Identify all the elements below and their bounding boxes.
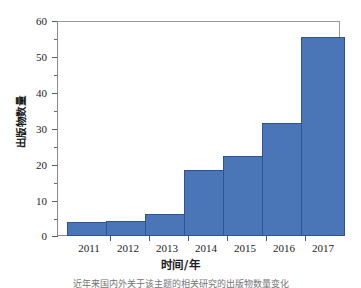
x-tick-mark-1 [110, 236, 111, 241]
x-tick-label-2016: 2016 [262, 242, 306, 254]
bar-2016[interactable] [262, 123, 306, 236]
x-tick-label-2013: 2013 [145, 242, 189, 254]
x-axis-title: 时间/年 [0, 256, 361, 272]
y-tick-label-0: 0 [21, 231, 47, 242]
y-tick-label-30: 30 [21, 124, 47, 135]
bar-2011[interactable] [67, 222, 111, 236]
x-tick-mark-6 [305, 236, 306, 241]
bar-2013[interactable] [145, 214, 189, 236]
bar-2014[interactable] [184, 170, 228, 236]
x-tick-mark-5 [266, 236, 267, 241]
x-tick-label-2011: 2011 [67, 242, 111, 254]
chart-figure: 出版物数量 60 50 40 30 20 10 0 2011 2012 2013… [0, 0, 361, 288]
figure-caption: 近年来国内外关于该主题的相关研究的出版物数量变化 [0, 277, 361, 288]
bar-2015[interactable] [223, 156, 267, 236]
x-tick-mark-2 [149, 236, 150, 241]
bar-2012[interactable] [106, 221, 150, 236]
y-tick-label-60: 60 [21, 16, 47, 27]
x-tick-label-2012: 2012 [106, 242, 150, 254]
y-tick-label-20: 20 [21, 160, 47, 171]
x-tick-mark-4 [227, 236, 228, 241]
x-tick-mark-3 [188, 236, 189, 241]
x-tick-label-2014: 2014 [184, 242, 228, 254]
y-tick-mark-0 [52, 236, 58, 237]
y-tick-label-40: 40 [21, 88, 47, 99]
y-tick-label-50: 50 [21, 52, 47, 63]
x-tick-label-2015: 2015 [223, 242, 267, 254]
y-tick-label-10: 10 [21, 196, 47, 207]
y-axis-title: 出版物数量 [13, 72, 29, 172]
bars-layer [57, 21, 340, 236]
x-tick-label-2017: 2017 [301, 242, 345, 254]
bar-2017[interactable] [301, 37, 345, 236]
